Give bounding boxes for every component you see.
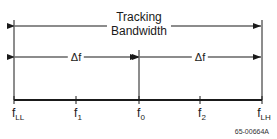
- label-subscript: LH: [261, 113, 271, 122]
- label-subscript: 0: [140, 113, 144, 122]
- label-subscript: 1: [77, 113, 81, 122]
- axis-label-f-2: f2: [198, 107, 206, 124]
- delta-f-right-label: Δf: [192, 52, 208, 63]
- figure-code: 65-00664A: [235, 128, 269, 135]
- axis-label-f-ll: fLL: [12, 107, 24, 124]
- delta-f-left-label: Δf: [68, 52, 84, 63]
- axis-label-f-0: f0: [137, 107, 145, 124]
- label-subscript: 2: [201, 113, 205, 122]
- tracking-bandwidth-label: Tracking Bandwidth: [107, 10, 171, 38]
- axis-label-f-lh: fLH: [257, 107, 271, 124]
- title-line-1: Tracking: [111, 10, 167, 24]
- label-subscript: LL: [15, 113, 24, 122]
- axis-label-f-1: f1: [74, 107, 82, 124]
- title-line-2: Bandwidth: [111, 24, 167, 38]
